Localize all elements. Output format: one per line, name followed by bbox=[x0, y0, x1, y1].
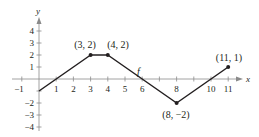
svg-text:1: 1 bbox=[30, 62, 35, 72]
svg-text:10: 10 bbox=[207, 84, 217, 94]
y-axis-label: y bbox=[35, 6, 40, 16]
svg-text:−3: −3 bbox=[24, 110, 34, 120]
svg-text:8: 8 bbox=[174, 84, 179, 94]
label-8-neg2: (8, −2) bbox=[162, 109, 189, 121]
label-11-1: (11, 1) bbox=[216, 52, 242, 64]
svg-text:5: 5 bbox=[123, 84, 128, 94]
svg-text:11: 11 bbox=[224, 84, 233, 94]
svg-text:4: 4 bbox=[30, 26, 35, 36]
label-3-2: (3, 2) bbox=[74, 39, 96, 51]
x-axis-arrow-icon bbox=[236, 77, 243, 82]
point-4-2 bbox=[106, 53, 110, 57]
y-axis bbox=[37, 20, 42, 131]
point-labels: (3, 2) (4, 2) (8, −2) (11, 1) bbox=[74, 39, 242, 121]
svg-text:3: 3 bbox=[88, 84, 93, 94]
point-3-2 bbox=[89, 53, 93, 57]
svg-text:−1: −1 bbox=[14, 84, 24, 94]
svg-text:4: 4 bbox=[106, 84, 111, 94]
svg-text:2: 2 bbox=[71, 84, 76, 94]
svg-text:3: 3 bbox=[30, 38, 35, 48]
function-label-f: f bbox=[137, 66, 141, 77]
function-graph: x y −1 1 2 3 4 5 6 8 10 11 4 3 2 1 −2 −3 bbox=[0, 0, 259, 137]
point-8-neg2 bbox=[175, 101, 179, 105]
label-4-2: (4, 2) bbox=[107, 39, 129, 51]
point-11-1 bbox=[226, 65, 230, 69]
svg-text:2: 2 bbox=[30, 50, 35, 60]
x-axis bbox=[12, 77, 238, 82]
svg-text:−4: −4 bbox=[24, 122, 34, 132]
svg-text:6: 6 bbox=[140, 84, 145, 94]
svg-text:−2: −2 bbox=[24, 98, 34, 108]
y-axis-arrow-icon bbox=[37, 17, 42, 24]
x-axis-label: x bbox=[245, 74, 250, 84]
svg-text:1: 1 bbox=[54, 84, 59, 94]
